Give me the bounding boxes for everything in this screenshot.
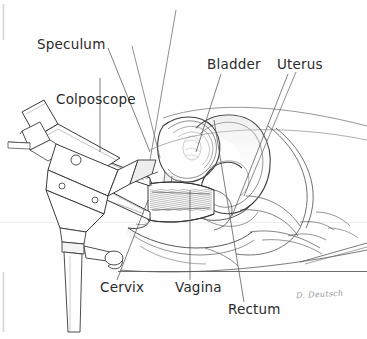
colposcope-instrument bbox=[8, 100, 158, 332]
label-bladder: Bladder bbox=[207, 58, 261, 72]
leader-speculum-c bbox=[150, 10, 176, 160]
medical-illustration-figure: Speculum Colposcope Bladder Uterus Cervi… bbox=[0, 0, 367, 339]
label-rectum: Rectum bbox=[228, 303, 281, 317]
label-colposcope: Colposcope bbox=[56, 93, 136, 107]
label-cervix: Cervix bbox=[100, 281, 144, 295]
label-uterus: Uterus bbox=[277, 58, 323, 72]
label-vagina: Vagina bbox=[175, 281, 222, 295]
label-speculum: Speculum bbox=[37, 38, 105, 52]
